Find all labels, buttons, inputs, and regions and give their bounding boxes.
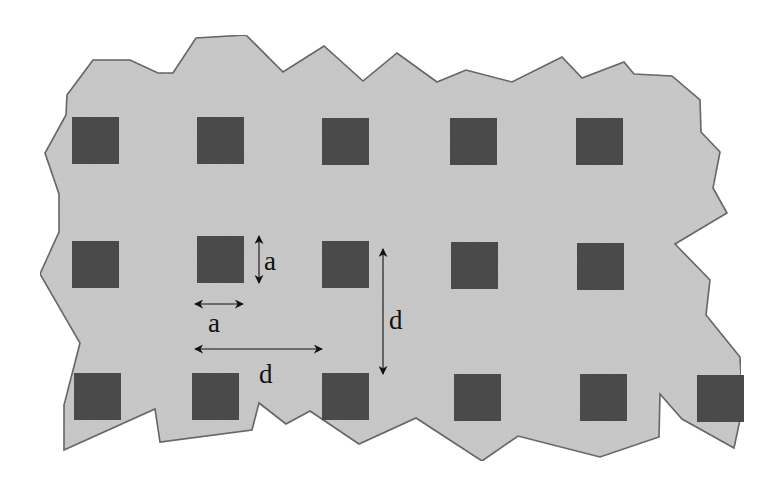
square-inclusion-r3-c3	[322, 373, 369, 420]
square-inclusion-r2-c2	[197, 236, 244, 283]
dimension-label-a: a	[208, 308, 220, 338]
square-inclusion-r1-c3	[322, 118, 369, 165]
square-inclusion-r1-c2	[197, 117, 244, 164]
square-inclusion-r2-c3	[322, 241, 369, 288]
dimension-label-a: a	[264, 246, 276, 276]
square-inclusion-r2-c4	[451, 242, 498, 289]
lattice-diagram: aadd	[0, 0, 779, 485]
matrix-region	[40, 35, 741, 461]
square-inclusion-r1-c5	[576, 118, 623, 165]
square-inclusion-r1-c1	[72, 117, 119, 164]
dimension-label-d: d	[259, 359, 273, 389]
square-inclusion-r2-c1	[72, 241, 119, 288]
dimension-label-d: d	[389, 305, 403, 335]
square-inclusion-r2-c5	[577, 243, 624, 290]
square-inclusion-r1-c4	[450, 118, 497, 165]
square-inclusion-r3-c6	[697, 375, 744, 422]
square-inclusion-r3-c4	[454, 374, 501, 421]
square-inclusion-r3-c2	[192, 373, 239, 420]
square-inclusion-r3-c5	[580, 374, 627, 421]
diagram-canvas: aadd	[0, 0, 779, 485]
square-inclusion-r3-c1	[74, 373, 121, 420]
